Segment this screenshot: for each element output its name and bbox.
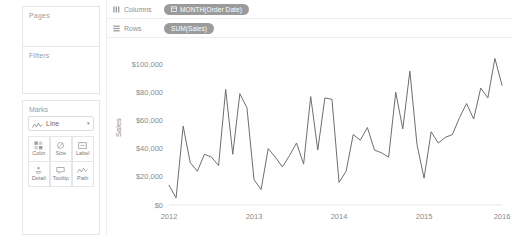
y-axis-tick-label: $40,000 — [136, 144, 163, 153]
pages-shelf[interactable]: Pages — [22, 6, 100, 46]
rows-pill-text: SUM(Sales) — [171, 25, 207, 32]
marks-color-label: Color — [32, 151, 45, 157]
sales-line-series[interactable] — [169, 58, 502, 198]
tooltip-icon — [56, 166, 65, 175]
marks-size-label: Size — [55, 151, 66, 157]
columns-shelf[interactable]: Columns MONTH(Order Date) — [107, 0, 512, 19]
marks-card: Marks Line ▾ — [22, 100, 100, 235]
marks-label-button[interactable]: Label — [72, 136, 95, 162]
rows-pill[interactable]: SUM(Sales) — [164, 23, 214, 34]
columns-pill-text: MONTH(Order Date) — [180, 6, 242, 13]
y-axis-title: Sales — [114, 118, 123, 137]
filters-shelf-title: Filters — [23, 47, 99, 63]
pages-shelf-title: Pages — [23, 7, 99, 23]
path-icon — [77, 166, 88, 175]
y-axis-tick-label: $0 — [155, 201, 163, 210]
left-sidebar: Pages Filters Marks Line ▾ — [0, 0, 106, 235]
mark-type-label: Line — [46, 120, 59, 127]
x-axis-tick-label: 2014 — [331, 212, 348, 221]
marks-detail-label: Detail — [32, 176, 46, 182]
columns-shelf-label: Columns — [124, 6, 164, 13]
label-icon — [78, 141, 87, 150]
detail-icon — [34, 166, 43, 175]
x-axis-tick-label: 2013 — [246, 212, 263, 221]
rows-shelf-label: Rows — [124, 25, 164, 32]
x-axis-tick-label: 2016 — [494, 212, 511, 221]
marks-path-button[interactable]: Path — [72, 161, 95, 187]
marks-detail-button[interactable]: Detail — [28, 161, 51, 187]
marks-path-label: Path — [77, 176, 88, 182]
chevron-down-icon[interactable]: ▾ — [87, 121, 90, 126]
filters-shelf[interactable]: Filters — [22, 46, 100, 94]
worksheet-panel: Columns MONTH(Order Date) — [106, 0, 512, 235]
columns-icon — [112, 6, 121, 13]
marks-buttons-grid: Color Size — [28, 136, 94, 187]
y-axis-tick-label: $100,000 — [132, 60, 163, 69]
color-palette-icon — [34, 141, 43, 150]
y-axis-tick-label: $60,000 — [136, 116, 163, 125]
chart-view[interactable]: $0$20,000$40,000$60,000$80,000$100,000Sa… — [107, 38, 512, 235]
marks-color-button[interactable]: Color — [28, 136, 51, 162]
marks-tooltip-label: Tooltip — [53, 176, 69, 182]
calendar-icon — [171, 6, 177, 12]
line-chart-icon — [32, 115, 43, 133]
marks-tooltip-button[interactable]: Tooltip — [50, 161, 73, 187]
columns-pill[interactable]: MONTH(Order Date) — [164, 4, 249, 15]
y-axis-tick-label: $20,000 — [136, 172, 163, 181]
mark-type-dropdown[interactable]: Line ▾ — [28, 116, 94, 131]
marks-label-label: Label — [76, 151, 89, 157]
x-axis-tick-label: 2015 — [416, 212, 433, 221]
y-axis-tick-label: $80,000 — [136, 88, 163, 97]
rows-icon — [112, 25, 121, 32]
x-axis-tick-label: 2012 — [161, 212, 178, 221]
rows-shelf[interactable]: Rows SUM(Sales) — [107, 19, 512, 38]
sales-line-chart[interactable]: $0$20,000$40,000$60,000$80,000$100,000Sa… — [107, 38, 512, 235]
size-icon — [56, 141, 65, 150]
marks-size-button[interactable]: Size — [50, 136, 73, 162]
